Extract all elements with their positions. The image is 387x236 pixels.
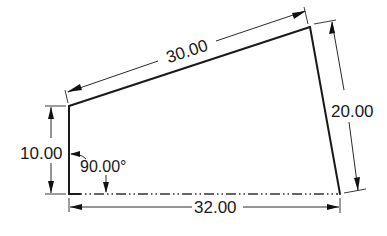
dimension-bottom-edge[interactable]: 32.00: [69, 198, 340, 217]
dimension-line: [216, 11, 305, 41]
arrowhead-icon: [354, 177, 360, 191]
extension-line: [344, 189, 366, 193]
edge-top[interactable]: [69, 27, 310, 106]
dimension-label: 32.00: [194, 198, 237, 217]
arrowhead-icon: [70, 151, 80, 157]
arrowhead-icon: [292, 11, 306, 19]
arrowhead-icon: [67, 84, 82, 92]
arrowhead-icon: [48, 181, 54, 193]
dimension-top-edge[interactable]: 30.00: [65, 7, 308, 103]
extension-line: [304, 7, 308, 24]
dimension-left-edge[interactable]: 10.00: [20, 106, 66, 194]
arrowhead-icon: [329, 21, 335, 34]
dimensioned-sketch: 30.00 20.00 10.00 32.00 90.00°: [0, 0, 387, 236]
angle-label: 90.00°: [80, 158, 126, 175]
arrowhead-icon: [48, 107, 54, 119]
dimension-line: [68, 61, 158, 92]
dimension-label: 10.00: [20, 144, 63, 163]
dimension-label: 20.00: [331, 102, 374, 121]
arrowhead-icon: [70, 204, 82, 210]
dimension-angle[interactable]: 90.00°: [70, 151, 126, 193]
arrowhead-icon: [103, 182, 109, 193]
dimension-right-edge[interactable]: 20.00: [314, 20, 374, 193]
arrowhead-icon: [327, 204, 339, 210]
extension-line: [65, 90, 68, 103]
